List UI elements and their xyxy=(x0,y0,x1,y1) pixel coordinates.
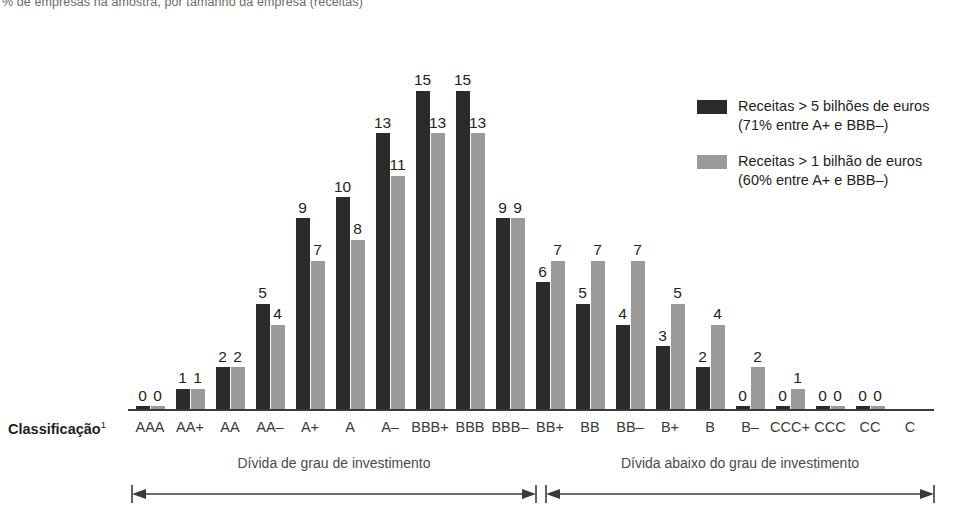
bar-pair: 47 xyxy=(610,28,650,410)
bar-dark: 6 xyxy=(536,28,550,410)
bar-rect xyxy=(671,304,685,411)
legend-label: Receitas > 5 bilhões de euros(71% entre … xyxy=(738,97,929,135)
category-label: B+ xyxy=(650,419,690,435)
bracket-label-investment-grade: Dívida de grau de investimento xyxy=(130,455,538,471)
bar-group: 02 xyxy=(730,28,770,410)
bar-value-label: 10 xyxy=(334,179,351,195)
bar-pair: 1513 xyxy=(410,28,450,410)
bar-light: 7 xyxy=(311,28,325,410)
category-label: C xyxy=(890,419,930,435)
bar-value-label: 7 xyxy=(633,242,642,258)
bar-pair: 00 xyxy=(850,28,890,410)
bar-group: 47 xyxy=(610,28,650,410)
bar-pair: 22 xyxy=(210,28,250,410)
bar-dark: 9 xyxy=(296,28,310,410)
bar-rect xyxy=(351,240,365,410)
bar-light: 7 xyxy=(551,28,565,410)
bar-rect xyxy=(296,218,310,410)
bar-pair: 108 xyxy=(330,28,370,410)
legend-label: Receitas > 1 bilhão de euros(60% entre A… xyxy=(738,152,922,190)
bar-pair xyxy=(890,28,930,410)
bar-pair: 1513 xyxy=(450,28,490,410)
bar-value-label: 0 xyxy=(778,388,787,404)
bar-group: 108 xyxy=(330,28,370,410)
bar-value-label: 5 xyxy=(258,285,267,301)
bar-group: 67 xyxy=(530,28,570,410)
bar-group: 99 xyxy=(490,28,530,410)
bar-rect xyxy=(631,261,645,410)
bar-light: 0 xyxy=(151,28,165,410)
bracket-arrow-investment-grade xyxy=(130,484,538,504)
bar-value-label: 1 xyxy=(193,370,202,386)
legend-item[interactable]: Receitas > 1 bilhão de euros(60% entre A… xyxy=(697,152,962,190)
bar-rect xyxy=(696,367,710,410)
bar-dark: 15 xyxy=(456,28,470,410)
category-label: A– xyxy=(370,419,410,435)
bar-pair: 1311 xyxy=(370,28,410,410)
bar-dark: 3 xyxy=(656,28,670,410)
bar-pair: 01 xyxy=(770,28,810,410)
category-label: BBB+ xyxy=(410,419,450,435)
bar-rect xyxy=(391,176,405,410)
bar-value-label: 2 xyxy=(753,349,762,365)
bar-value-label: 4 xyxy=(273,306,282,322)
category-label: A+ xyxy=(290,419,330,435)
bar-rect xyxy=(456,91,470,411)
bar-light: 8 xyxy=(351,28,365,410)
bar-value-label: 0 xyxy=(873,388,882,404)
bar-value-label: 2 xyxy=(218,349,227,365)
bar-dark: 0 xyxy=(136,28,150,410)
x-axis-line xyxy=(128,409,934,411)
bar-group: 57 xyxy=(570,28,610,410)
bar-light: 2 xyxy=(751,28,765,410)
bar-dark: 4 xyxy=(616,28,630,410)
bar-dark xyxy=(896,28,910,410)
bar-rect xyxy=(336,197,350,410)
legend-label-line1: Receitas > 5 bilhões de euros xyxy=(738,98,929,114)
bracket-arrow-sub-investment-grade xyxy=(544,484,936,504)
chart-legend: Receitas > 5 bilhões de euros(71% entre … xyxy=(697,97,962,208)
bar-group: 00 xyxy=(810,28,850,410)
legend-label-line1: Receitas > 1 bilhão de euros xyxy=(738,153,922,169)
bar-rect xyxy=(311,261,325,410)
bar-value-label: 11 xyxy=(389,157,405,173)
bar-rect xyxy=(591,261,605,410)
bar-value-label: 3 xyxy=(658,328,667,344)
bar-rect xyxy=(471,133,485,410)
category-label: CCC xyxy=(810,419,850,435)
bar-rect xyxy=(496,218,510,410)
bar-light: 4 xyxy=(271,28,285,410)
bar-light: 1 xyxy=(191,28,205,410)
category-label: BB+ xyxy=(530,419,570,435)
legend-item[interactable]: Receitas > 5 bilhões de euros(71% entre … xyxy=(697,97,962,135)
bar-rect xyxy=(711,325,725,410)
bar-group: 1311 xyxy=(370,28,410,410)
bar-value-label: 5 xyxy=(673,285,682,301)
plot-area: 0011225497108131115131513996757473524020… xyxy=(130,28,930,410)
bar-light: 2 xyxy=(231,28,245,410)
bar-light: 9 xyxy=(511,28,525,410)
bar-pair: 00 xyxy=(130,28,170,410)
legend-label-line2: (60% entre A+ e BBB–) xyxy=(738,171,922,190)
bar-rect xyxy=(256,304,270,411)
bar-value-label: 1 xyxy=(793,370,802,386)
bar-value-label: 0 xyxy=(858,388,867,404)
legend-swatch xyxy=(697,100,727,114)
bar-group: 1513 xyxy=(410,28,450,410)
bar-group: 00 xyxy=(130,28,170,410)
bar-value-label: 0 xyxy=(738,388,747,404)
bar-value-label: 2 xyxy=(233,349,242,365)
bar-value-label: 15 xyxy=(414,72,431,88)
bar-group: 22 xyxy=(210,28,250,410)
bar-light: 13 xyxy=(431,28,445,410)
bar-dark: 5 xyxy=(256,28,270,410)
bar-light: 11 xyxy=(391,28,405,410)
bar-rect xyxy=(176,389,190,410)
x-axis-title-footnote: 1 xyxy=(101,419,106,430)
bar-value-label: 9 xyxy=(298,200,307,216)
bar-group: 11 xyxy=(170,28,210,410)
bar-value-label: 8 xyxy=(353,221,362,237)
bar-rect xyxy=(551,261,565,410)
bar-light xyxy=(911,28,925,410)
bar-rect xyxy=(791,389,805,410)
